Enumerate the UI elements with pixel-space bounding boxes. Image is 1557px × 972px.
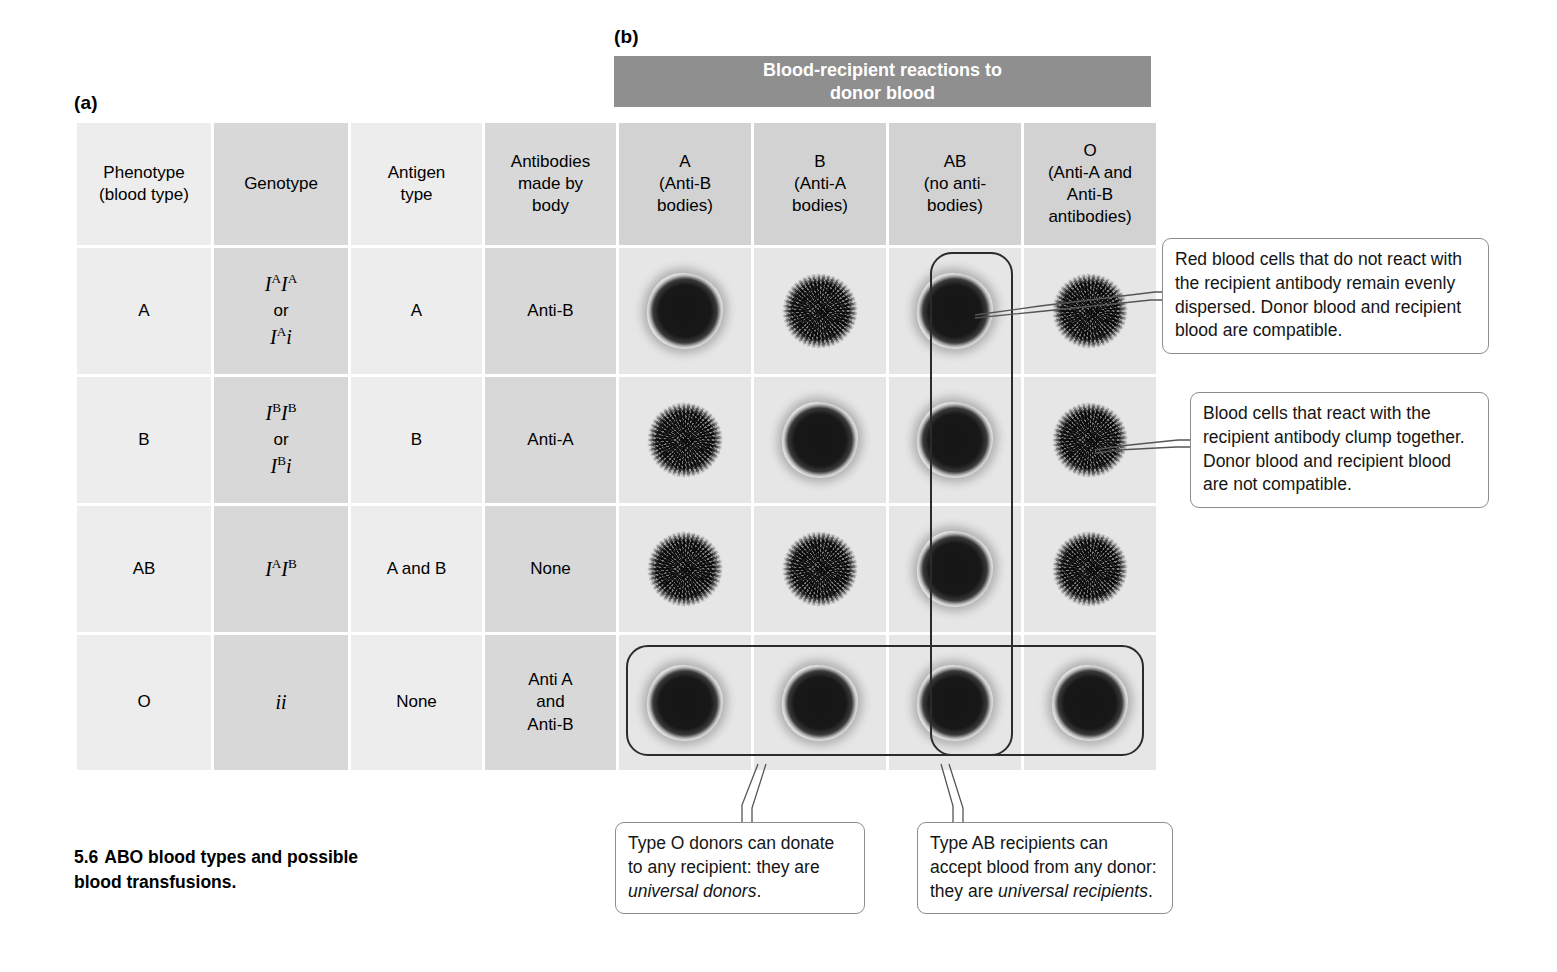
header-donor-o-line-4: antibodies) [1027, 206, 1153, 228]
figure-caption: 5.6ABO blood types and possible blood tr… [74, 845, 404, 895]
header-donor-o: O (Anti-A and Anti-B antibodies) [1024, 123, 1156, 245]
row-o-antibodies-line-3: Anti-B [488, 714, 613, 736]
table-row-a: A IAIA or IAi A Anti-B [77, 248, 1156, 374]
blood-spot-compatible-icon [782, 665, 858, 741]
blood-spot-compatible-icon [1052, 665, 1128, 741]
panel-b-label: (b) [614, 26, 639, 48]
row-a-reaction-donor-b [754, 248, 886, 374]
callout-universal-recipients: Type AB recipients can accept blood from… [917, 822, 1173, 914]
header-antibodies-line-3: body [488, 195, 613, 217]
header-donor-b-line-1: B [757, 151, 883, 173]
header-donor-b-line-2: (Anti-A [757, 173, 883, 195]
row-o-antibodies-line-2: and [488, 691, 613, 713]
header-phenotype-line-1: Phenotype [80, 162, 208, 184]
blood-spot-compatible-icon [647, 273, 723, 349]
header-donor-b-line-3: bodies) [757, 195, 883, 217]
blood-spot-compatible-icon [917, 402, 993, 478]
blood-spot-clumped-icon [782, 531, 858, 607]
blood-spot-clumped-icon [1052, 273, 1128, 349]
header-donor-a-line-1: A [622, 151, 748, 173]
blood-spot-clumped-icon [782, 273, 858, 349]
header-donor-ab-line-2: (no anti- [892, 173, 1018, 195]
row-a-reaction-donor-ab [889, 248, 1021, 374]
header-antigen-type: Antigen type [351, 123, 482, 245]
abo-blood-type-table: Phenotype (blood type) Genotype Antigen … [74, 120, 1159, 773]
row-b-genotype-line-2: IBi [217, 452, 345, 481]
panel-a-label: (a) [74, 92, 98, 114]
blood-spot-clumped-icon [1052, 531, 1128, 607]
row-o-phenotype: O [77, 635, 211, 770]
row-a-antigen: A [351, 248, 482, 374]
row-o-reaction-donor-b [754, 635, 886, 770]
header-antigen-line-1: Antigen [354, 162, 479, 184]
row-b-reaction-donor-b [754, 377, 886, 503]
row-o-reaction-donor-ab [889, 635, 1021, 770]
row-o-reaction-donor-a [619, 635, 751, 770]
row-b-reaction-donor-a [619, 377, 751, 503]
row-a-genotype-line-2: IAi [217, 323, 345, 352]
blood-recipient-reactions-banner: Blood-recipient reactions to donor blood [614, 56, 1151, 107]
row-ab-phenotype: AB [77, 506, 211, 632]
header-donor-o-line-2: (Anti-A and [1027, 162, 1153, 184]
row-ab-reaction-donor-a [619, 506, 751, 632]
row-a-genotype: IAIA or IAi [214, 248, 348, 374]
callout-compatible-explanation: Red blood cells that do not react with t… [1162, 238, 1489, 354]
header-donor-a-line-3: bodies) [622, 195, 748, 217]
header-donor-o-line-3: Anti-B [1027, 184, 1153, 206]
row-a-antibodies: Anti-B [485, 248, 616, 374]
row-ab-reaction-donor-o [1024, 506, 1156, 632]
row-a-phenotype: A [77, 248, 211, 374]
blood-spot-clumped-icon [1052, 402, 1128, 478]
row-b-genotype-or: or [217, 428, 345, 453]
header-donor-ab-line-3: bodies) [892, 195, 1018, 217]
callout-abrecipient-text-post: . [1148, 881, 1153, 901]
header-donor-ab-line-1: AB [892, 151, 1018, 173]
row-o-antigen: None [351, 635, 482, 770]
callout-incompatible-explanation: Blood cells that react with the recipien… [1190, 392, 1489, 508]
row-a-reaction-donor-o [1024, 248, 1156, 374]
blood-spot-clumped-icon [647, 402, 723, 478]
blood-spot-compatible-icon [917, 273, 993, 349]
callout-odonor-text-pre: Type O donors can donate to any recipien… [628, 833, 834, 877]
callout-universal-donors: Type O donors can donate to any recipien… [615, 822, 865, 914]
header-phenotype: Phenotype (blood type) [77, 123, 211, 245]
table-header-row: Phenotype (blood type) Genotype Antigen … [77, 123, 1156, 245]
header-antibodies-line-1: Antibodies [488, 151, 613, 173]
figure-caption-text: ABO blood types and possible blood trans… [74, 847, 358, 892]
header-phenotype-line-2: (blood type) [80, 184, 208, 206]
header-antigen-line-2: type [354, 184, 479, 206]
row-a-genotype-line-1: IAIA [217, 270, 345, 299]
row-ab-genotype: IAIB [214, 506, 348, 632]
row-ab-antigen: A and B [351, 506, 482, 632]
row-o-genotype-line-1: ii [217, 688, 345, 717]
header-donor-a-line-2: (Anti-B [622, 173, 748, 195]
row-a-genotype-or: or [217, 299, 345, 324]
row-ab-reaction-donor-ab [889, 506, 1021, 632]
row-b-genotype-line-1: IBIB [217, 399, 345, 428]
blood-spot-compatible-icon [917, 665, 993, 741]
row-b-antigen: B [351, 377, 482, 503]
table-row-ab: AB IAIB A and B None [77, 506, 1156, 632]
row-o-reaction-donor-o [1024, 635, 1156, 770]
row-o-antibodies: Anti A and Anti-B [485, 635, 616, 770]
callout-odonor-emphasis: universal donors [628, 881, 756, 901]
header-donor-a: A (Anti-B bodies) [619, 123, 751, 245]
row-b-reaction-donor-ab [889, 377, 1021, 503]
row-o-antibodies-line-1: Anti A [488, 669, 613, 691]
callout-odonor-text-post: . [756, 881, 761, 901]
callout-incompatible-text: Blood cells that react with the recipien… [1203, 403, 1465, 494]
row-b-genotype: IBIB or IBi [214, 377, 348, 503]
row-ab-genotype-line-1: IAIB [217, 555, 345, 584]
banner-line-1: Blood-recipient reactions to [755, 59, 1010, 82]
blood-spot-compatible-icon [782, 402, 858, 478]
row-b-reaction-donor-o [1024, 377, 1156, 503]
header-antibodies-line-2: made by [488, 173, 613, 195]
figure-caption-number: 5.6 [74, 847, 98, 867]
row-b-antibodies: Anti-A [485, 377, 616, 503]
blood-spot-compatible-icon [647, 665, 723, 741]
header-donor-o-line-1: O [1027, 140, 1153, 162]
blood-spot-compatible-icon [917, 531, 993, 607]
row-o-genotype: ii [214, 635, 348, 770]
callout-abrecipient-emphasis: universal recipients [998, 881, 1148, 901]
callout-compatible-text: Red blood cells that do not react with t… [1175, 249, 1462, 340]
